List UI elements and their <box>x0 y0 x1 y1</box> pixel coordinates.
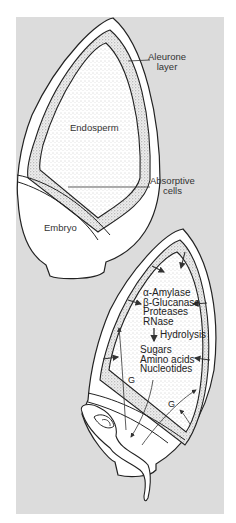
label-gibberellin-right: G <box>168 400 175 410</box>
upper-grain <box>17 18 160 279</box>
label-absorptive-cells: Absorptive cells <box>150 176 195 196</box>
label-absorptive-line2: cells <box>150 186 195 196</box>
label-hydrolysis: Hydrolysis <box>160 330 206 340</box>
label-gibberellin-left: G <box>128 376 135 386</box>
seed-diagram-svg <box>0 0 236 523</box>
enzyme-rnase: RNase <box>143 317 200 327</box>
product-list: Sugars Amino acids Nucleotides <box>140 345 194 374</box>
enzyme-list: α-Amylase β-Glucanase Proteases RNase <box>143 288 200 326</box>
label-aleurone-line2: layer <box>148 62 186 72</box>
label-endosperm: Endosperm <box>70 123 119 133</box>
label-aleurone-layer: Aleurone layer <box>148 52 186 72</box>
product-nucleotides: Nucleotides <box>140 364 194 374</box>
label-embryo: Embryo <box>44 223 77 233</box>
